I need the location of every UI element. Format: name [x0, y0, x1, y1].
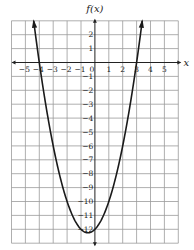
y-tick-label: −11 — [78, 211, 94, 220]
y-tick-label: −7 — [82, 155, 93, 164]
coordinate-plane: −5−4−3−2−101234521−1−2−3−4−5−6−7−8−9−10−… — [0, 0, 194, 250]
x-tick-label: −2 — [61, 65, 72, 74]
parabola-graph: −5−4−3−2−101234521−1−2−3−4−5−6−7−8−9−10−… — [0, 0, 194, 250]
y-tick-label: −6 — [82, 142, 93, 151]
axes — [12, 19, 182, 246]
y-tick-label: −2 — [82, 86, 93, 95]
y-tick-label: −1 — [82, 72, 93, 81]
x-tick-label: 5 — [162, 65, 167, 74]
y-axis-down-arrow-icon — [93, 242, 97, 246]
y-tick-label: −3 — [82, 100, 93, 109]
y-tick-label: −9 — [82, 183, 93, 192]
y-tick-label: −5 — [82, 128, 93, 137]
x-tick-label: 4 — [148, 65, 153, 74]
x-tick-label: 2 — [120, 65, 125, 74]
y-tick-label: 1 — [89, 44, 94, 53]
x-axis-right-arrow-icon — [177, 61, 181, 65]
x-axis-left-arrow-icon — [12, 61, 16, 65]
y-axis-label: f(x) — [85, 3, 103, 14]
y-tick-label: 2 — [89, 30, 94, 39]
y-tick-label: −4 — [82, 114, 93, 123]
x-tick-label: −5 — [19, 65, 30, 74]
y-tick-label: −8 — [82, 169, 93, 178]
y-tick-label: −10 — [78, 197, 94, 206]
x-axis-label: x — [183, 57, 189, 68]
x-tick-label: 1 — [106, 65, 111, 74]
x-tick-label: −4 — [33, 65, 44, 74]
x-tick-label: −3 — [47, 65, 58, 74]
